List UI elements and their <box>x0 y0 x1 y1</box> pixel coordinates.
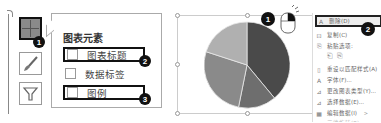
select-data-icon: ⊿ <box>315 99 323 106</box>
option-legend[interactable]: 图例 <box>63 85 145 100</box>
menu-item-label: 编辑数据(I) <box>327 109 357 117</box>
resize-handle[interactable] <box>175 13 180 18</box>
menu-item-paste-options: ⎘ 粘贴选项: <box>315 41 381 51</box>
checkbox[interactable] <box>65 68 76 79</box>
pie-chart[interactable] <box>204 21 290 109</box>
selection-bracket <box>8 14 14 114</box>
menu-item-font[interactable]: A 字体(F)... <box>315 75 381 85</box>
menu-item-label: 删除(D) <box>329 17 350 25</box>
menu-item-3d-rotation: ▢ 三维旋转(R)... <box>315 118 381 122</box>
menu-item-select-data[interactable]: ⊿ 选择数据(E)... <box>315 97 381 107</box>
step-badge-3: 3 <box>139 93 151 105</box>
checkbox[interactable] <box>67 87 78 98</box>
menu-item-label: 粘贴选项: <box>327 42 353 50</box>
rotation-icon: ▢ <box>315 120 323 123</box>
resize-handle[interactable] <box>245 13 250 18</box>
option-label: 数据标签 <box>85 67 125 81</box>
copy-icon: ⊡ <box>315 32 323 39</box>
chart-filters-button[interactable] <box>19 82 42 105</box>
resize-handle[interactable] <box>175 62 180 67</box>
reset-icon: ▯ <box>315 66 323 73</box>
option-label: 图表标题 <box>87 48 127 62</box>
paste-icon: ⎘ <box>315 42 323 50</box>
menu-item-edit-data[interactable]: ▦ 编辑数据(I) > <box>315 108 381 118</box>
menu-item-label: 选择数据(E)... <box>327 98 364 106</box>
option-chart-title[interactable]: 图表标题 <box>63 47 145 62</box>
menu-item-label: 重设以匹配样式(A) <box>327 65 377 73</box>
step-badge-2: 2 <box>139 55 151 67</box>
menu-item-reset-style[interactable]: ▯ 重设以匹配样式(A) <box>315 64 381 74</box>
chevron-right-icon: > <box>364 110 368 116</box>
filter-icon <box>22 85 39 102</box>
menu-item-label: 字体(F)... <box>327 76 352 84</box>
paste-keep-format-icon[interactable]: ⎗ <box>327 52 333 60</box>
resize-handle[interactable] <box>175 111 180 116</box>
table-icon: ▦ <box>315 110 323 117</box>
checkbox[interactable] <box>67 49 78 60</box>
chart-styles-button[interactable] <box>19 52 42 75</box>
option-data-labels[interactable]: 数据标签 <box>63 66 145 81</box>
brush-icon <box>22 55 39 72</box>
delete-icon: A <box>317 18 325 25</box>
font-icon: A <box>315 77 323 84</box>
flyout-title: 图表元素 <box>63 30 103 45</box>
resize-handle[interactable] <box>245 111 250 116</box>
step-badge-1: 1 <box>261 12 275 26</box>
menu-item-label: 三维旋转(R)... <box>327 119 364 122</box>
paste-option-buttons: ⎗ ⎘ <box>327 52 343 60</box>
option-label: 图例 <box>87 86 107 100</box>
step-badge-1: 1 <box>33 36 45 48</box>
step-badge-2: 2 <box>361 22 375 36</box>
menu-item-label: 更改图表类型(Y)... <box>327 87 376 95</box>
paste-picture-icon[interactable]: ⎘ <box>337 52 343 60</box>
menu-item-label: 复制(C) <box>327 31 347 39</box>
chart-type-icon: ⊿ <box>315 88 323 95</box>
mouse-right-click-icon <box>279 5 301 35</box>
plus-icon <box>22 20 39 37</box>
menu-item-change-chart-type[interactable]: ⊿ 更改图表类型(Y)... <box>315 86 381 96</box>
